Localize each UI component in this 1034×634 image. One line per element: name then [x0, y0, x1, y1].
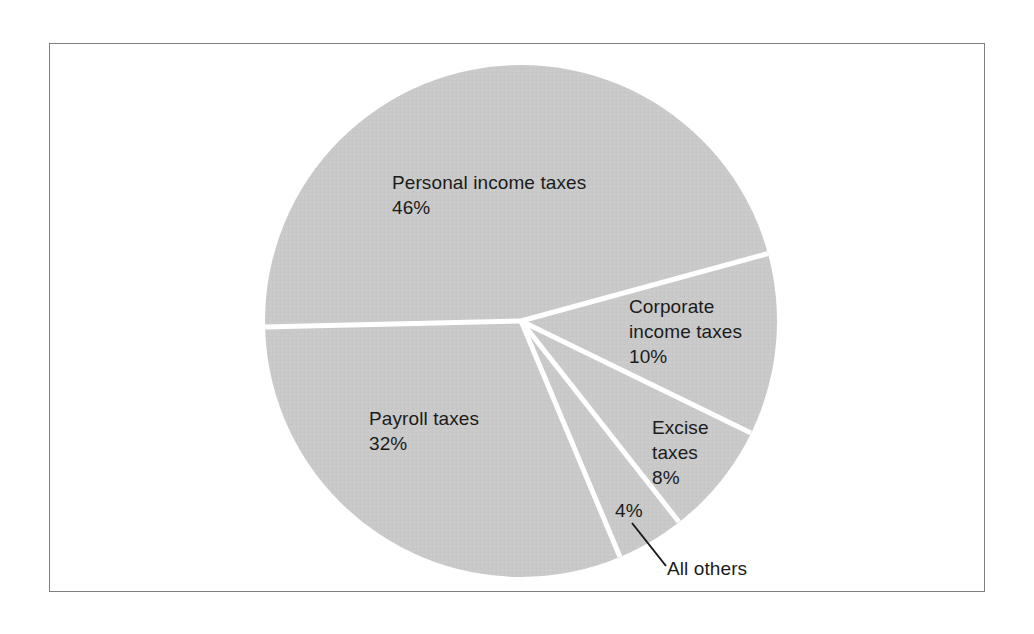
pie-label-payroll-taxes: Payroll taxes 32% [369, 406, 479, 456]
pie-label-all-others-callout: All others [667, 556, 747, 581]
pie-label-personal-income-taxes: Personal income taxes 46% [392, 170, 586, 220]
pie-chart [0, 0, 1034, 634]
pie-label-excise-taxes: Excise taxes 8% [652, 415, 709, 490]
pie-label-all-others-percent: 4% [615, 498, 643, 523]
figure-page: Personal income taxes 46% Corporate inco… [0, 0, 1034, 634]
pie-label-corporate-income-taxes: Corporate income taxes 10% [629, 294, 742, 369]
